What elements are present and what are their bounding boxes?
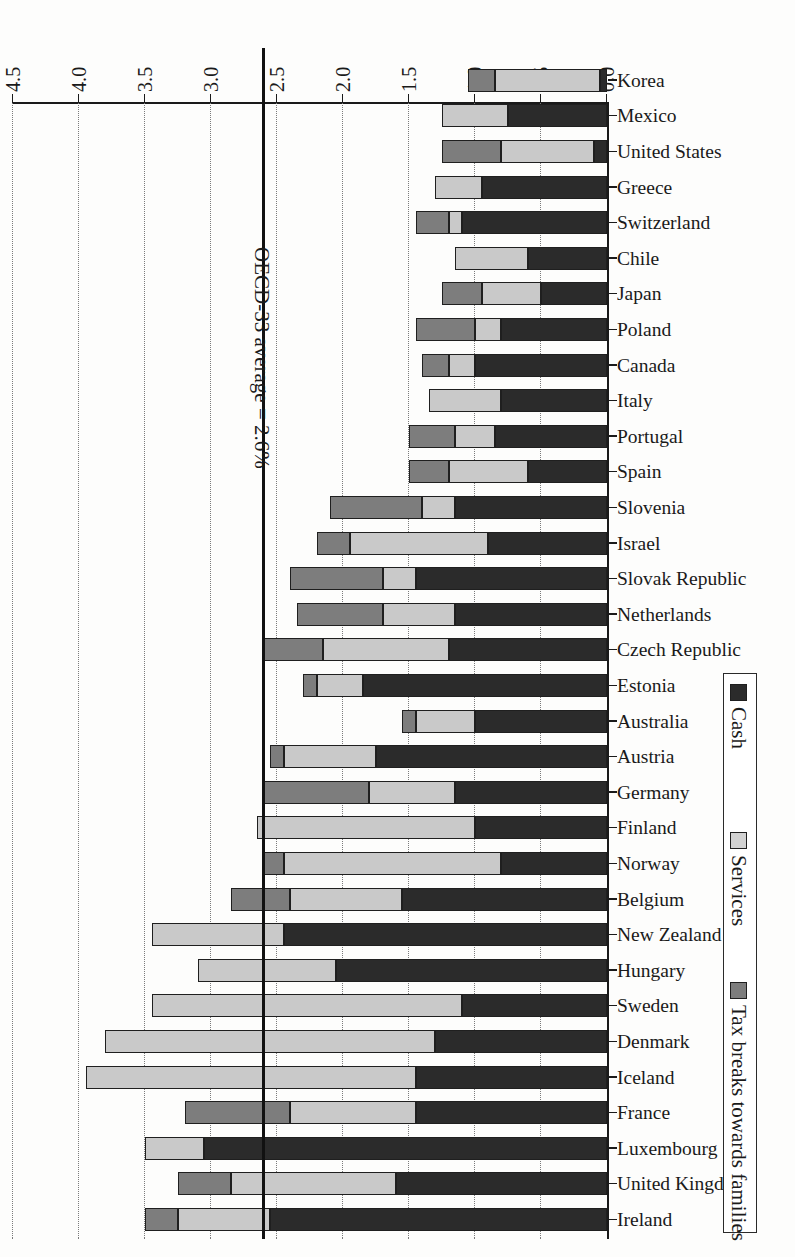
bar-row[interactable] xyxy=(13,816,607,839)
bar-row[interactable] xyxy=(13,959,607,982)
bar-segment-tax[interactable] xyxy=(231,888,290,911)
bar-segment-tax[interactable] xyxy=(402,710,415,733)
bar-segment-services[interactable] xyxy=(290,888,402,911)
bar-segment-services[interactable] xyxy=(449,460,528,483)
bar-segment-tax[interactable] xyxy=(178,1172,231,1195)
bar-row[interactable] xyxy=(13,745,607,768)
bar-segment-services[interactable] xyxy=(290,1101,415,1124)
bar-segment-services[interactable] xyxy=(323,638,448,661)
bar-segment-cash[interactable] xyxy=(396,1172,607,1195)
bar-row[interactable] xyxy=(13,567,607,590)
bar-segment-services[interactable] xyxy=(495,69,601,92)
bar-segment-cash[interactable] xyxy=(501,389,607,412)
bar-segment-tax[interactable] xyxy=(270,745,283,768)
bar-segment-cash[interactable] xyxy=(482,176,607,199)
bar-row[interactable] xyxy=(13,638,607,661)
bar-segment-services[interactable] xyxy=(152,994,462,1017)
bar-segment-tax[interactable] xyxy=(442,282,482,305)
bar-row[interactable] xyxy=(13,460,607,483)
bar-segment-tax[interactable] xyxy=(264,781,370,804)
bar-segment-services[interactable] xyxy=(86,1066,416,1089)
bar-segment-services[interactable] xyxy=(231,1172,396,1195)
bar-row[interactable] xyxy=(13,425,607,448)
bar-row[interactable] xyxy=(13,354,607,377)
bar-segment-services[interactable] xyxy=(383,603,456,626)
bar-segment-cash[interactable] xyxy=(435,1030,607,1053)
bar-segment-services[interactable] xyxy=(449,354,475,377)
bar-segment-tax[interactable] xyxy=(422,354,448,377)
bar-segment-cash[interactable] xyxy=(455,781,607,804)
bar-row[interactable] xyxy=(13,104,607,127)
bar-row[interactable] xyxy=(13,710,607,733)
bar-segment-tax[interactable] xyxy=(468,69,494,92)
bar-row[interactable] xyxy=(13,496,607,519)
bar-segment-cash[interactable] xyxy=(594,140,607,163)
bar-segment-cash[interactable] xyxy=(462,994,607,1017)
bar-segment-cash[interactable] xyxy=(501,852,607,875)
bar-row[interactable] xyxy=(13,603,607,626)
bar-segment-services[interactable] xyxy=(350,532,489,555)
bar-row[interactable] xyxy=(13,532,607,555)
bar-segment-services[interactable] xyxy=(284,852,502,875)
bar-segment-cash[interactable] xyxy=(284,923,607,946)
bar-row[interactable] xyxy=(13,1137,607,1160)
bar-row[interactable] xyxy=(13,247,607,270)
bar-row[interactable] xyxy=(13,1066,607,1089)
bar-segment-cash[interactable] xyxy=(455,603,607,626)
bar-segment-tax[interactable] xyxy=(185,1101,291,1124)
bar-segment-cash[interactable] xyxy=(475,710,607,733)
bar-segment-cash[interactable] xyxy=(475,354,607,377)
bar-row[interactable] xyxy=(13,318,607,341)
bar-segment-services[interactable] xyxy=(435,176,481,199)
bar-segment-cash[interactable] xyxy=(376,745,607,768)
bar-row[interactable] xyxy=(13,140,607,163)
bar-segment-cash[interactable] xyxy=(488,532,607,555)
bar-segment-cash[interactable] xyxy=(416,567,607,590)
bar-segment-cash[interactable] xyxy=(501,318,607,341)
bar-segment-services[interactable] xyxy=(178,1208,270,1231)
bar-segment-services[interactable] xyxy=(284,745,376,768)
bar-segment-tax[interactable] xyxy=(264,638,323,661)
bar-row[interactable] xyxy=(13,852,607,875)
bar-segment-cash[interactable] xyxy=(462,211,607,234)
bar-segment-tax[interactable] xyxy=(416,318,475,341)
bar-segment-services[interactable] xyxy=(369,781,455,804)
bar-row[interactable] xyxy=(13,888,607,911)
bar-segment-services[interactable] xyxy=(455,247,528,270)
bar-row[interactable] xyxy=(13,674,607,697)
bar-row[interactable] xyxy=(13,389,607,412)
bar-segment-tax[interactable] xyxy=(303,674,316,697)
bar-row[interactable] xyxy=(13,994,607,1017)
bar-segment-services[interactable] xyxy=(257,816,475,839)
bar-row[interactable] xyxy=(13,1101,607,1124)
bar-segment-tax[interactable] xyxy=(264,852,284,875)
bar-segment-cash[interactable] xyxy=(416,1066,607,1089)
bar-row[interactable] xyxy=(13,781,607,804)
bar-segment-services[interactable] xyxy=(501,140,593,163)
bar-segment-cash[interactable] xyxy=(495,425,607,448)
bar-row[interactable] xyxy=(13,176,607,199)
bar-segment-services[interactable] xyxy=(449,211,462,234)
bar-segment-services[interactable] xyxy=(317,674,363,697)
bar-row[interactable] xyxy=(13,1030,607,1053)
bar-segment-cash[interactable] xyxy=(541,282,607,305)
bar-segment-services[interactable] xyxy=(105,1030,435,1053)
bar-segment-services[interactable] xyxy=(455,425,495,448)
bar-segment-services[interactable] xyxy=(383,567,416,590)
bar-row[interactable] xyxy=(13,1208,607,1231)
bar-row[interactable] xyxy=(13,282,607,305)
bar-segment-services[interactable] xyxy=(475,318,501,341)
bar-segment-services[interactable] xyxy=(429,389,502,412)
bar-segment-cash[interactable] xyxy=(416,1101,607,1124)
bar-segment-services[interactable] xyxy=(442,104,508,127)
bar-row[interactable] xyxy=(13,69,607,92)
bar-segment-cash[interactable] xyxy=(600,69,607,92)
bar-segment-cash[interactable] xyxy=(528,460,607,483)
bar-segment-services[interactable] xyxy=(422,496,455,519)
bar-segment-cash[interactable] xyxy=(449,638,607,661)
bar-segment-tax[interactable] xyxy=(317,532,350,555)
bar-segment-cash[interactable] xyxy=(528,247,607,270)
bar-segment-cash[interactable] xyxy=(508,104,607,127)
bar-segment-tax[interactable] xyxy=(442,140,501,163)
bar-segment-tax[interactable] xyxy=(297,603,383,626)
